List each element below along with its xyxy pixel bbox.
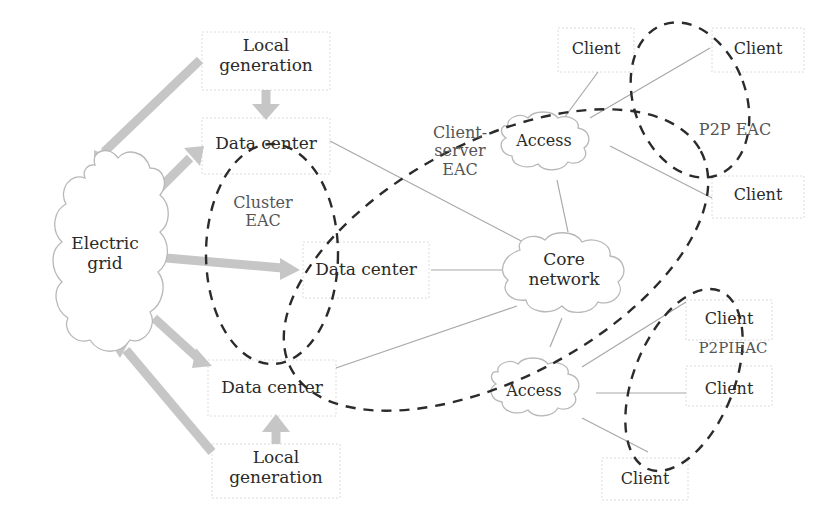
local-generation-bottom-line2: generation: [212, 468, 340, 488]
cluster-eac-line1: Cluster: [218, 194, 308, 212]
local-generation-top-line1: Local: [202, 36, 330, 56]
access-top: Access: [508, 132, 580, 150]
eac-diagram: Local generation Data center Cluster EAC…: [0, 0, 824, 524]
client-lower-top: Client: [686, 310, 772, 328]
electric-grid-line1: Electric: [60, 234, 150, 254]
local-generation-bottom: Local generation: [212, 448, 340, 487]
client-top-right: Client: [712, 40, 804, 58]
client-server-eac-line3: EAC: [420, 161, 500, 179]
local-generation-top: Local generation: [202, 36, 330, 75]
client-server-eac-line1: Client-: [420, 124, 500, 142]
data-center-top: Data center: [202, 134, 330, 154]
local-generation-bottom-line1: Local: [212, 448, 340, 468]
client-top-left: Client: [558, 40, 634, 58]
client-server-eac-line2: server: [420, 142, 500, 160]
electric-grid-line2: grid: [60, 254, 150, 274]
access-bottom: Access: [498, 382, 570, 400]
core-network-line1: Core: [516, 250, 612, 270]
p2p-eac-bottom-label: P2PIEAC: [688, 340, 778, 357]
cluster-eac-line2: EAC: [218, 212, 308, 230]
client-server-eac-label: Client- server EAC: [420, 124, 500, 179]
electric-grid: Electric grid: [60, 234, 150, 273]
core-network-line2: network: [516, 270, 612, 290]
client-lower-mid: Client: [686, 380, 772, 398]
data-center-middle: Data center: [303, 260, 429, 280]
cluster-eac-label: Cluster EAC: [218, 194, 308, 231]
client-lower-bottom: Client: [602, 470, 688, 488]
p2p-eac-top-label: P2P EAC: [690, 121, 780, 139]
eac-boundaries: [206, 6, 770, 488]
client-mid-right: Client: [712, 186, 804, 204]
data-center-bottom: Data center: [208, 378, 336, 398]
core-network: Core network: [516, 250, 612, 289]
local-generation-top-line2: generation: [202, 56, 330, 76]
